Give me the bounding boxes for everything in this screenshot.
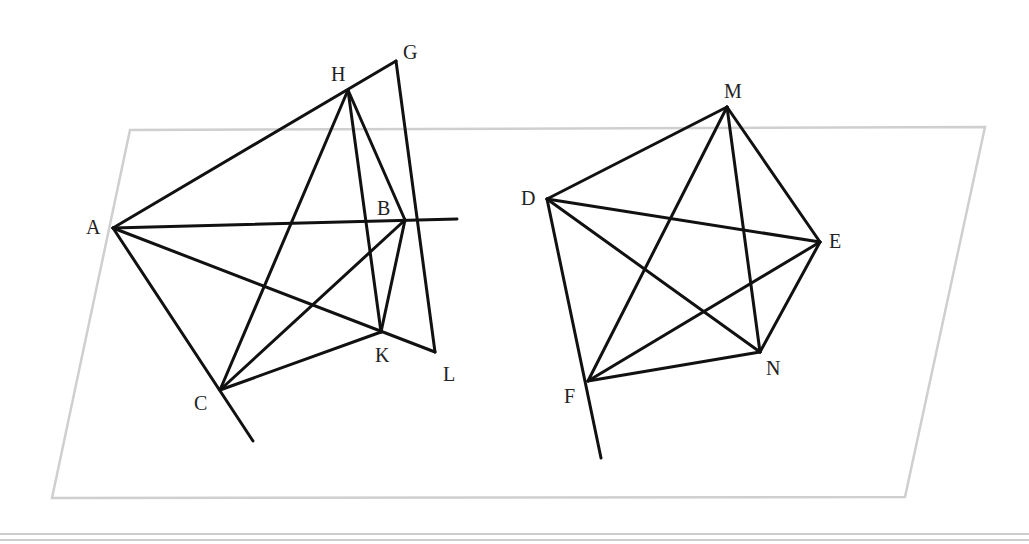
point-label-l: L [443,363,455,385]
segment [113,228,435,352]
point-label-d: D [521,187,535,209]
segment [396,61,435,352]
segment [113,228,253,441]
segment [220,90,348,390]
figures: AHGBKLCDMENF [86,41,841,458]
point-label-m: M [724,80,742,102]
bottom-rules [0,534,1029,540]
right-figure: DMENF [521,80,841,458]
point-label-a: A [86,216,101,238]
point-label-b: B [377,197,390,219]
segment [547,107,727,199]
segment [220,332,381,390]
segment [547,199,601,458]
segment [547,199,820,242]
point-label-h: H [331,63,345,85]
point-label-k: K [375,344,390,366]
point-label-n: N [766,357,780,379]
segment [113,61,396,228]
point-label-e: E [829,230,841,252]
point-label-g: G [403,41,417,63]
point-label-c: C [194,392,207,414]
segment [547,199,760,352]
left-figure: AHGBKLC [86,41,457,441]
point-label-f: F [564,385,575,407]
geometry-diagram: AHGBKLCDMENF [0,0,1029,544]
